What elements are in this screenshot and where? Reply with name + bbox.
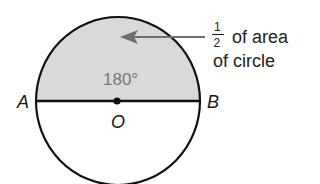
point-a-label: A xyxy=(16,92,29,112)
annotation-line1: of area xyxy=(232,27,289,47)
semicircle-area-diagram: A B O 180° 1 2 of area of circle xyxy=(0,0,320,184)
center-point-o xyxy=(113,97,120,104)
annotation-line2: of circle xyxy=(213,51,275,71)
center-o-label: O xyxy=(111,112,125,132)
area-annotation: 1 2 of area of circle xyxy=(212,20,289,71)
point-b-label: B xyxy=(207,92,219,112)
fraction-numerator: 1 xyxy=(214,20,221,34)
fraction-denominator: 2 xyxy=(214,36,221,50)
angle-180-label: 180° xyxy=(103,70,138,89)
